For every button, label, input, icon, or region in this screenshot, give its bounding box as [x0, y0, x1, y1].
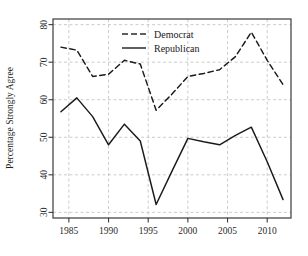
- y-tick-label: 60: [39, 95, 49, 105]
- x-tick-label: 1995: [139, 226, 158, 236]
- y-tick-label: 30: [39, 207, 49, 217]
- x-tick-label: 1985: [59, 226, 78, 236]
- y-tick-label: 70: [39, 57, 49, 67]
- legend-label-democrat: Democrat: [154, 29, 194, 40]
- y-axis-ticks: [49, 25, 54, 213]
- legend-label-republican: Republican: [154, 43, 200, 54]
- chart-figure: 198519901995200020052010 304050607080 Pe…: [0, 0, 308, 256]
- x-axis-ticks: [69, 218, 267, 223]
- x-axis-tick-labels: 198519901995200020052010: [59, 226, 277, 236]
- y-tick-label: 50: [39, 132, 49, 142]
- y-axis-title: Percentage Strongly Agree: [5, 67, 15, 169]
- y-tick-label: 80: [39, 20, 49, 30]
- line-chart: 198519901995200020052010 304050607080 Pe…: [0, 0, 308, 256]
- x-tick-label: 2005: [218, 226, 237, 236]
- x-tick-label: 2000: [178, 226, 197, 236]
- y-tick-label: 40: [39, 170, 49, 180]
- x-tick-label: 1990: [99, 226, 118, 236]
- x-tick-label: 2010: [258, 226, 277, 236]
- y-axis-tick-labels: 304050607080: [39, 20, 49, 217]
